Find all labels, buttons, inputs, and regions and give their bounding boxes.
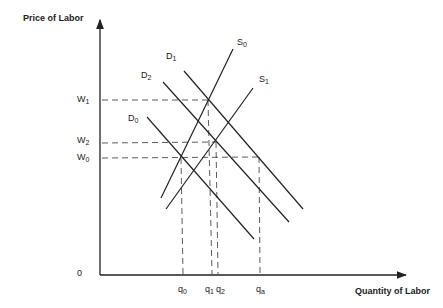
- quantity-label-q2: q2: [216, 284, 225, 295]
- y-axis-label: Price of Labor: [23, 13, 84, 23]
- quantity-label-qa: qa: [256, 284, 265, 295]
- quantity-label-q1: q1: [205, 284, 214, 295]
- supply-curve-s0: [161, 49, 233, 198]
- labor-market-diagram: Price of Labor Quantity of Labor 0 W1 W2…: [0, 0, 443, 308]
- curve-label-d1: D1: [166, 51, 176, 62]
- demand-curve-d0: [147, 117, 254, 239]
- curve-label-d0: D0: [128, 113, 138, 124]
- q0-guide: [181, 158, 183, 274]
- wage-label-w2: W2: [77, 135, 89, 146]
- supply-curve-s1: [166, 88, 253, 209]
- demand-curve-d1: [184, 71, 303, 209]
- diagram-canvas: [0, 0, 443, 308]
- curve-label-s0: S0: [237, 37, 247, 48]
- qa-guide: [259, 157, 260, 274]
- curve-label-d2: D2: [141, 70, 151, 81]
- q2-guide: [216, 142, 218, 274]
- curve-label-s1: S1: [259, 74, 269, 85]
- wage-label-w1: W1: [77, 94, 89, 105]
- wage-label-w0: W0: [77, 152, 89, 163]
- quantity-label-q0: q0: [178, 284, 187, 295]
- x-axis-label: Quantity of Labor: [355, 286, 430, 296]
- w2-guide: [102, 142, 216, 143]
- origin-label: 0: [77, 268, 82, 278]
